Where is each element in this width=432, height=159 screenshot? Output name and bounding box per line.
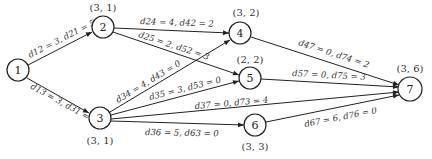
edge-labels: d12 = 3, d21 = 5 d13 = 3, d31 = 4 d24 = … [26, 16, 378, 138]
edge-label-3-4: d34 = 4, d43 = 0 [114, 58, 183, 105]
edge-label-4-7: d47 = 0, d74 = 2 [297, 37, 370, 69]
edge-3-6 [111, 121, 244, 125]
node-6-coord: (3, 3) [242, 141, 269, 152]
edge-label-1-3: d13 = 3, d31 = 4 [29, 81, 98, 126]
edge-label-2-5: d25 = 2, d52 = 3 [137, 29, 210, 61]
node-7-label: 7 [407, 83, 414, 96]
node-4-label: 4 [237, 27, 244, 40]
node-2-coord: (3, 1) [90, 2, 117, 13]
node-2-label: 2 [100, 21, 107, 34]
node-5: 5 (2, 2) [237, 54, 264, 89]
network-diagram: d12 = 3, d21 = 5 d13 = 3, d31 = 4 d24 = … [0, 0, 432, 159]
edge-label-6-7: d67 = 6, d76 = 0 [303, 105, 378, 129]
edge-label-5-7: d57 = 0, d75 = 3 [292, 68, 366, 82]
node-5-label: 5 [247, 72, 254, 85]
edge-label-2-4: d24 = 4, d42 = 2 [140, 16, 214, 29]
node-1: 1 [7, 59, 29, 81]
node-1-label: 1 [15, 64, 22, 77]
node-6-label: 6 [252, 119, 259, 132]
node-3-coord: (3, 1) [87, 135, 114, 146]
edge-label-3-6: d36 = 5, d63 = 0 [145, 127, 220, 138]
edge-label-1-2: d12 = 3, d21 = 5 [26, 17, 96, 59]
node-5-coord: (2, 2) [237, 54, 264, 65]
edge-5-7 [261, 79, 399, 87]
node-6: 6 (3, 3) [242, 114, 269, 152]
node-3: 3 (3, 1) [87, 107, 114, 146]
node-4-coord: (3, 2) [233, 7, 260, 18]
node-7: 7 (3, 6) [397, 63, 424, 101]
node-3-label: 3 [97, 112, 104, 125]
edge-2-4 [114, 28, 229, 33]
node-2: 2 (3, 1) [90, 2, 117, 38]
node-7-coord: (3, 6) [397, 63, 424, 74]
edge-label-3-7: d37 = 0, d73 = 4 [194, 95, 268, 111]
